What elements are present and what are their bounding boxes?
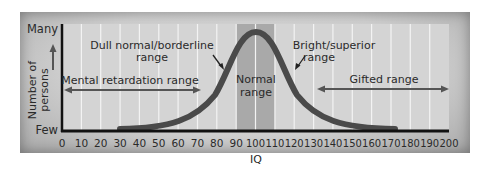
x-tick: 180	[401, 137, 420, 149]
x-tick: 190	[420, 137, 439, 149]
x-tick: 90	[230, 137, 243, 149]
x-tick: 70	[191, 137, 204, 149]
x-tick: 30	[113, 137, 126, 149]
x-tick: 60	[171, 137, 184, 149]
x-tick: 120	[285, 137, 304, 149]
x-tick: 200	[440, 137, 459, 149]
dull-normal-label-line2: range	[136, 51, 168, 64]
x-tick-labels: 0 10 20 30 40 50 60 70 80 90 100 110 120…	[59, 137, 459, 149]
mental-retardation-label: Mental retardation range	[61, 74, 199, 87]
x-tick: 110	[265, 137, 284, 149]
x-tick: 80	[210, 137, 223, 149]
y-axis-title: Number of persons	[26, 60, 51, 119]
x-tick: 0	[59, 137, 66, 149]
x-tick: 40	[133, 137, 146, 149]
y-label-many: Many	[27, 22, 58, 36]
normal-range-label-line1: Normal	[236, 73, 276, 86]
x-tick: 20	[94, 137, 107, 149]
x-tick: 100	[246, 137, 265, 149]
x-tick: 160	[362, 137, 381, 149]
x-tick: 10	[75, 137, 88, 149]
x-tick: 140	[323, 137, 342, 149]
bright-superior-label-line2: range	[303, 51, 335, 64]
x-tick: 150	[343, 137, 362, 149]
y-label-few: Few	[36, 123, 58, 137]
x-tick: 50	[152, 137, 165, 149]
y-title-line2: persons	[38, 68, 51, 112]
x-tick: 170	[382, 137, 401, 149]
iq-distribution-chart: Many Few Number of persons 0 10 20 30 40…	[0, 0, 486, 175]
x-axis-title: IQ	[250, 153, 262, 166]
normal-range-label-line2: range	[240, 86, 272, 99]
gifted-range-label: Gifted range	[350, 73, 419, 86]
x-tick: 130	[304, 137, 323, 149]
up-arrow-icon	[50, 44, 57, 70]
